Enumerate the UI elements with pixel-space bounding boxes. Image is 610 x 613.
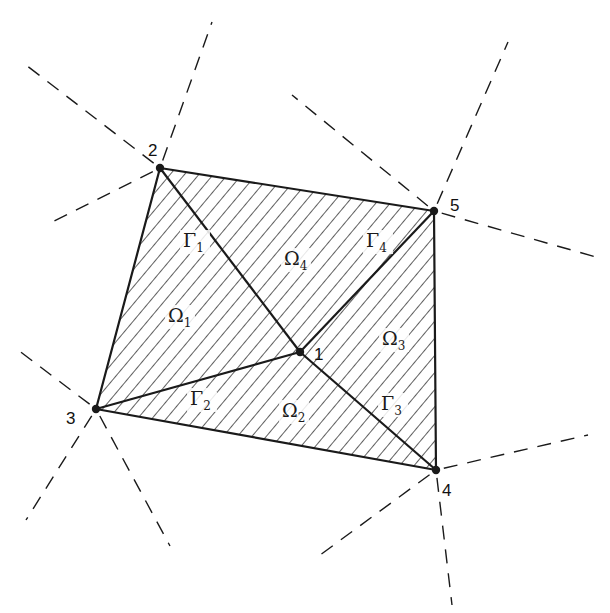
dashed-ray-10: [316, 475, 430, 558]
node-5-label: 5: [450, 196, 459, 215]
dashed-ray-2: [48, 172, 153, 224]
dashed-ray-3: [292, 95, 428, 206]
node-3-dot: [92, 405, 100, 413]
node-1-label: 1: [314, 345, 323, 364]
dashed-ray-7: [26, 416, 92, 520]
node-2-dot: [156, 164, 164, 172]
node-4-label: 4: [442, 481, 451, 500]
node-5-dot: [430, 207, 438, 215]
node-4-dot: [432, 466, 440, 474]
dashed-ray-8: [100, 416, 170, 546]
dashed-ray-6: [18, 350, 90, 404]
dashed-ray-1: [163, 22, 212, 160]
fem-patch-diagram: Ω1Ω2Ω3Ω4 Γ1Γ2Γ3Γ4 12345: [0, 0, 610, 613]
dashed-ray-5: [442, 213, 596, 257]
node-3-label: 3: [66, 409, 75, 428]
dashed-ray-0: [26, 65, 154, 163]
node-2-label: 2: [148, 141, 157, 160]
node-1-dot: [296, 348, 304, 356]
dashed-ray-9: [444, 435, 588, 468]
dashed-ray-4: [437, 42, 508, 204]
